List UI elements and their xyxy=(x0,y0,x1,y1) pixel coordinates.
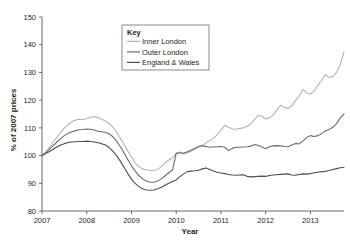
x-tick-label: 2010 xyxy=(168,216,185,225)
legend-label-0: Inner London xyxy=(142,37,186,46)
x-tick-label: 2011 xyxy=(213,216,229,225)
legend-title: Key xyxy=(127,28,142,37)
series-group xyxy=(42,52,344,190)
x-axis-title: Year xyxy=(182,227,199,236)
x-tick-label: 2008 xyxy=(78,216,95,225)
y-tick-label: 140 xyxy=(23,40,36,49)
legend-label-1: Outer London xyxy=(142,48,188,57)
y-tick-label: 150 xyxy=(23,13,36,22)
y-tick-label: 90 xyxy=(28,179,36,188)
y-axis-tick-labels: 8090100110120130140150 xyxy=(23,13,36,216)
x-axis-tick-labels: 2007200820092010201120122013 xyxy=(34,216,319,225)
series-line-outer-london xyxy=(42,114,344,182)
x-tick-label: 2012 xyxy=(257,216,274,225)
y-tick-label: 120 xyxy=(23,96,36,105)
x-tick-label: 2007 xyxy=(34,216,51,225)
line-chart: 8090100110120130140150 20072008200920102… xyxy=(0,0,350,245)
y-tick-label: 100 xyxy=(23,151,36,160)
y-tick-label: 110 xyxy=(24,124,36,133)
chart-legend: Key Inner LondonOuter LondonEngland & Wa… xyxy=(122,25,209,70)
series-line-england-wales xyxy=(42,141,344,190)
x-tick-label: 2009 xyxy=(123,216,140,225)
legend-label-2: England & Wales xyxy=(142,58,200,67)
y-tick-label: 80 xyxy=(28,207,36,216)
y-tick-label: 130 xyxy=(23,68,36,77)
chart-container: 8090100110120130140150 20072008200920102… xyxy=(0,0,350,245)
x-tick-label: 2013 xyxy=(302,216,319,225)
y-axis-title: % of 2007 prices xyxy=(9,88,18,151)
